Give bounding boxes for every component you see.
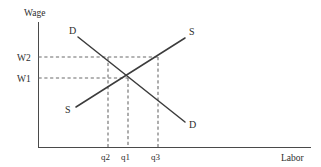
supply-curve-label-bottom: S bbox=[65, 104, 71, 115]
chart-canvas: Wage Labor W2 W1 q2 q1 q3 D D S S bbox=[0, 0, 321, 167]
axes-group bbox=[39, 22, 312, 148]
y-tick-label-w1: W1 bbox=[17, 74, 31, 84]
demand-curve-label-bottom: D bbox=[189, 119, 196, 130]
demand-curve-label-top: D bbox=[69, 25, 76, 36]
y-axis-title: Wage bbox=[24, 8, 45, 18]
demand-curve bbox=[78, 37, 185, 122]
x-tick-label-q1: q1 bbox=[121, 152, 130, 162]
y-tick-label-w2: W2 bbox=[17, 53, 31, 63]
supply-curve-label-top: S bbox=[189, 26, 195, 37]
wage-guide-lines bbox=[39, 57, 159, 78]
supply-demand-chart: Wage Labor W2 W1 q2 q1 q3 D D S S bbox=[0, 0, 321, 167]
x-tick-label-q3: q3 bbox=[151, 152, 161, 162]
x-axis-title: Labor bbox=[281, 153, 305, 163]
x-tick-label-q2: q2 bbox=[101, 152, 110, 162]
